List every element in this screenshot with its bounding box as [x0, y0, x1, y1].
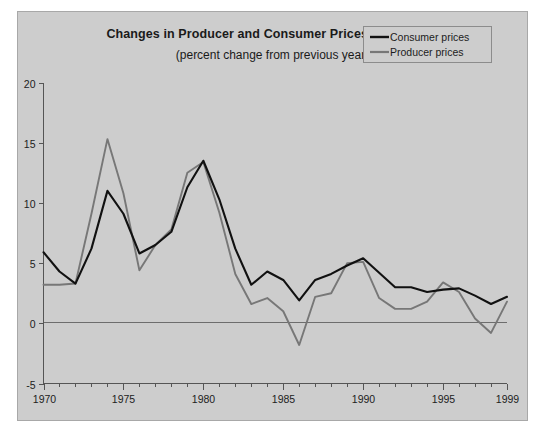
chart-panel: Changes in Producer and Consumer Prices,… — [17, 11, 528, 421]
y-tick-label: 10 — [24, 198, 36, 210]
y-tick-label: 15 — [24, 138, 36, 150]
x-tick-label: 1980 — [192, 393, 216, 405]
x-tick-label: 1970 — [33, 393, 57, 405]
x-tick-label: 1990 — [352, 393, 376, 405]
y-tick-label: 20 — [24, 78, 36, 90]
x-tick-label: 1995 — [432, 393, 456, 405]
x-tick-label: 1985 — [272, 393, 296, 405]
line-chart-plot: -505101520 1970197519801985199019951999 … — [18, 12, 529, 422]
y-tick-label: 0 — [30, 318, 36, 330]
chart-legend[interactable]: Consumer prices Producer prices — [364, 27, 492, 63]
x-tick-label: 1999 — [496, 393, 520, 405]
y-tick-label: 5 — [30, 258, 36, 270]
series-line-producer-prices — [44, 139, 508, 345]
x-axis-minor-ticks — [60, 384, 492, 388]
legend-label-producer-prices: Producer prices — [390, 46, 464, 58]
series-line-consumer-prices — [44, 161, 508, 304]
x-axis-ticks — [45, 384, 508, 390]
legend-label-consumer-prices: Consumer prices — [390, 31, 469, 43]
y-axis-tick-labels: -505101520 — [24, 78, 36, 391]
y-tick-label: -5 — [26, 379, 35, 391]
x-tick-label: 1975 — [112, 393, 136, 405]
figure-container: Changes in Producer and Consumer Prices,… — [0, 0, 536, 432]
y-axis-ticks — [39, 84, 44, 385]
x-axis-tick-labels: 1970197519801985199019951999 — [33, 393, 520, 405]
